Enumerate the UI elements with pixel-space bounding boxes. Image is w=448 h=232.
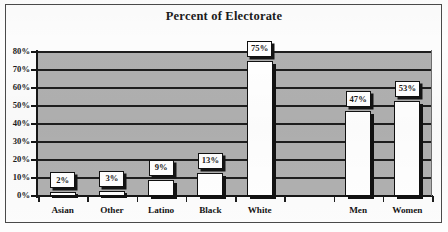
gridline (38, 141, 432, 143)
y-axis-tick-mark (31, 195, 37, 197)
x-axis-label-women: Women (377, 205, 437, 216)
data-label-women: 53% (395, 81, 420, 97)
y-axis-tick-label: 20% (0, 155, 30, 164)
x-axis-tick-mark (235, 196, 237, 202)
gridline (38, 87, 432, 89)
bar-asian[interactable] (50, 192, 76, 196)
data-label-black: 13% (198, 153, 223, 169)
x-axis-tick-mark (432, 196, 434, 202)
gridline (38, 177, 432, 179)
data-label-other: 3% (99, 171, 124, 187)
y-axis-tick-mark (31, 159, 37, 161)
y-axis-tick-label: 40% (0, 119, 30, 128)
bar-black[interactable] (197, 173, 223, 196)
y-axis-tick-label: 80% (0, 47, 30, 56)
data-label-asian: 2% (50, 172, 75, 188)
bar-women[interactable] (394, 101, 420, 196)
y-axis-tick-mark (31, 177, 37, 179)
gridline (38, 69, 432, 71)
y-axis-tick-label: 70% (0, 65, 30, 74)
x-axis-tick-mark (186, 196, 188, 202)
plot-area (38, 52, 432, 196)
gridline (38, 51, 432, 53)
y-axis-tick-label: 60% (0, 83, 30, 92)
y-axis-tick-label: 0% (0, 191, 30, 200)
gridline (38, 123, 432, 125)
y-axis-tick-label: 10% (0, 173, 30, 182)
x-axis-tick-mark (334, 196, 336, 202)
gridline (38, 159, 432, 161)
bar-latino[interactable] (148, 180, 174, 196)
y-axis-tick-mark (31, 87, 37, 89)
x-axis-tick-mark (38, 196, 40, 202)
data-label-latino: 9% (149, 160, 174, 176)
x-axis-tick-mark (87, 196, 89, 202)
chart-figure: Percent of Electorate 0%10%20%30%40%50%6… (0, 0, 448, 232)
y-axis-tick-label: 30% (0, 137, 30, 146)
x-axis-label-white: White (230, 205, 290, 216)
bar-men[interactable] (345, 111, 371, 196)
y-axis-tick-label: 50% (0, 101, 30, 110)
bar-other[interactable] (99, 191, 125, 196)
x-axis-tick-mark (383, 196, 385, 202)
bar-white[interactable] (247, 61, 273, 196)
x-axis-tick-mark (137, 196, 139, 202)
gridline (38, 105, 432, 107)
data-label-men: 47% (346, 91, 371, 107)
plot-right-edge (431, 50, 432, 196)
data-label-white: 75% (247, 41, 272, 57)
y-axis-tick-mark (31, 105, 37, 107)
y-axis-tick-mark (31, 51, 37, 53)
y-axis-tick-mark (31, 141, 37, 143)
y-axis-tick-mark (31, 123, 37, 125)
x-axis-tick-mark (284, 196, 286, 202)
chart-title: Percent of Electorate (0, 9, 448, 24)
y-axis-tick-mark (31, 69, 37, 71)
